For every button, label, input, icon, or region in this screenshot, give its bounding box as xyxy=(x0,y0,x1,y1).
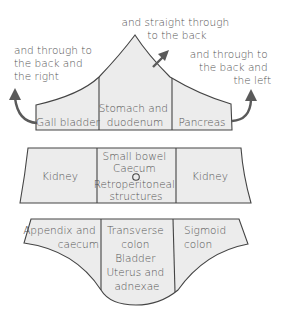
label-transverse-colon-etc: Transverse colon Bladder Uterus and adne… xyxy=(106,224,167,292)
left-annotation: and through to the back and the right xyxy=(14,44,95,82)
label-kidney-left: Kidney xyxy=(42,170,78,182)
label-kidney-right: Kidney xyxy=(192,170,228,182)
left-arrow-icon xyxy=(9,88,37,123)
label-pancreas: Pancreas xyxy=(178,116,225,128)
back-arrow-icon xyxy=(153,50,169,67)
label-gall-bladder: Gall bladder xyxy=(36,116,101,128)
top-annotation: and straight through to the back xyxy=(122,16,233,41)
right-arrow-icon xyxy=(232,89,257,121)
abdominal-regions-diagram: and through to the back and the right an… xyxy=(0,0,283,317)
right-annotation: and through to the back and the left xyxy=(190,48,271,86)
